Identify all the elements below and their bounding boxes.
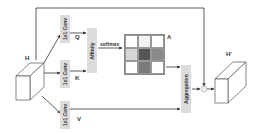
matrix-cell	[151, 35, 164, 48]
sum-node-icon	[201, 86, 207, 92]
matrix-cell	[125, 48, 138, 61]
matrix-cell	[151, 48, 164, 61]
output-tensor-icon	[215, 62, 246, 103]
matrix-cell	[125, 61, 138, 74]
matrix-cell	[125, 35, 138, 48]
conv-v-box: 1x1 Conv	[60, 101, 70, 129]
conv-q-box: 1x1 Conv	[60, 15, 70, 43]
matrix-cell	[151, 61, 164, 74]
conv-v-label: 1x1 Conv	[62, 104, 68, 126]
matrix-cell	[138, 48, 151, 61]
conv-k-label: 1x1 Conv	[62, 63, 68, 85]
matrix-cell	[138, 61, 151, 74]
affinity-box: Affinity	[87, 28, 97, 73]
conv-q-label: 1x1 Conv	[62, 18, 68, 40]
affinity-label: Affinity	[89, 42, 95, 59]
k-label: K	[75, 75, 79, 81]
aggregation-box: Aggregation	[181, 65, 191, 113]
softmax-label: softmax	[100, 41, 119, 47]
conv-k-box: 1x1 Conv	[60, 60, 70, 88]
q-label: Q	[75, 34, 80, 40]
input-tensor-icon	[16, 63, 44, 100]
matrix-cell	[138, 35, 151, 48]
attention-matrix	[124, 34, 165, 75]
attention-diagram: H H' 1x1 Conv 1x1 Conv 1x1 Conv Q K V Af…	[0, 0, 257, 134]
aggregation-label: Aggregation	[183, 74, 189, 103]
input-label: H	[25, 55, 29, 61]
v-label: V	[77, 116, 81, 122]
output-label: H'	[226, 51, 232, 57]
attention-label: A	[167, 34, 171, 40]
